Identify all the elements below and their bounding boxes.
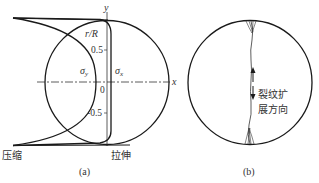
tension-label: 拉伸 bbox=[111, 149, 131, 161]
crack-branch-top bbox=[246, 21, 256, 33]
bottom-baseline bbox=[13, 145, 130, 146]
diagram-a: y x r/R 0.5 0 -0.5 σy σx 压缩 拉伸 (a) bbox=[2, 2, 177, 178]
x-axis-label: x bbox=[171, 76, 177, 87]
stress-distribution-figure: y x r/R 0.5 0 -0.5 σy σx 压缩 拉伸 (a) 裂纹扩 展… bbox=[0, 0, 319, 183]
sigma-x-label: σx bbox=[115, 65, 124, 78]
caption-b: (b) bbox=[243, 166, 255, 178]
arrow-down-icon bbox=[251, 86, 256, 100]
y-axis-label: y bbox=[103, 2, 109, 13]
sigma-y-label: σy bbox=[80, 65, 89, 78]
ratio-label: r/R bbox=[85, 28, 98, 39]
diagram-b: 裂纹扩 展方向 (b) bbox=[188, 21, 312, 179]
tick-label-0: 0 bbox=[100, 85, 105, 95]
crack-direction-label-line1: 裂纹扩 bbox=[258, 88, 288, 100]
caption-a: (a) bbox=[79, 166, 90, 178]
specimen-circle-b bbox=[188, 21, 312, 145]
compression-label: 压缩 bbox=[2, 149, 22, 161]
crack-line bbox=[248, 21, 253, 144]
tick-label-minus-0.5: -0.5 bbox=[87, 108, 102, 118]
tick-label-0.5: 0.5 bbox=[91, 45, 103, 55]
crack-direction-label-line2: 展方向 bbox=[258, 103, 288, 115]
